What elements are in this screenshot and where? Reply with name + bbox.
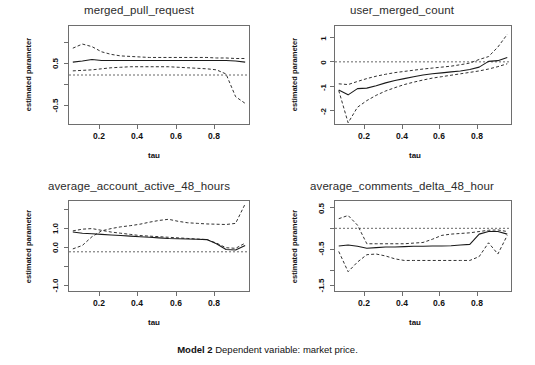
series-estimate [73,232,245,250]
plot-area [334,200,512,292]
y-tick-label: -1.5 [317,273,326,299]
panel-average-comments-delta-48-hour: average_comments_delta_48_hour estimated… [276,180,528,340]
x-tick-mark [214,292,215,296]
x-tick-mark [176,292,177,296]
y-axis-label: estimated parameter [24,201,33,293]
series-group-3 [335,215,511,271]
x-tick-mark [99,292,100,296]
figure-caption: Model 2 Dependent variable: market price… [0,344,535,355]
panel-title: merged_pull_request [10,4,268,16]
y-axis-label: estimated parameter [24,29,33,121]
x-tick-mark [439,125,440,129]
y-tick-label: -2 [319,102,328,122]
series-group-0 [69,44,249,103]
x-axis-label: tau [50,318,258,327]
series-estimate [339,232,508,249]
plot-svg [335,201,511,291]
x-tick-mark [137,292,138,296]
x-tick-mark [137,125,138,129]
y-tick-mark [330,228,334,229]
y-tick-mark [64,209,68,210]
y-tick-mark [64,228,68,229]
series-estimate [73,60,245,63]
y-tick-label: 0.0 [51,235,60,261]
y-tick-label: -0.5 [51,94,60,118]
figure-container: merged_pull_request estimated parameter … [0,0,535,365]
y-tick-label: 0.5 [51,53,60,75]
x-tick-label: 0.2 [88,298,110,308]
x-tick-label: 0.4 [391,298,413,308]
series-upper_ci [339,215,508,243]
y-tick-label: 1 [319,30,328,48]
series-lower_ci [73,204,245,249]
y-tick-mark [330,37,334,38]
series-upper_ci [73,44,245,58]
x-tick-label: 0.4 [126,298,148,308]
y-tick-mark [64,105,68,106]
x-tick-label: 0.6 [428,298,450,308]
caption-model-label: Model 2 [177,344,212,355]
x-tick-label: 0.2 [353,131,375,141]
x-tick-label: 0.2 [353,298,375,308]
x-tick-label: 0.8 [203,298,225,308]
x-tick-label: 0.4 [391,131,413,141]
x-axis-label: tau [316,318,514,327]
panel-average-account-active-48-hours: average_account_active_48_hours estimate… [10,180,268,340]
x-tick-mark [402,292,403,296]
panel-user-merged-count: user_merged_count estimated parameter 1 … [276,4,528,176]
x-tick-label: 0.8 [203,131,225,141]
y-tick-mark [64,63,68,64]
panel-title: user_merged_count [276,4,528,16]
plot-area [68,200,250,292]
x-tick-mark [477,292,478,296]
x-tick-label: 0.6 [165,298,187,308]
y-tick-mark [64,247,68,248]
x-tick-label: 0.2 [88,131,110,141]
x-tick-label: 0.4 [126,131,148,141]
x-tick-mark [477,125,478,129]
y-tick-label: 0.5 [317,197,326,221]
x-tick-mark [214,125,215,129]
x-tick-mark [176,125,177,129]
y-axis-label: estimated parameter [290,201,299,293]
panel-title: average_account_active_48_hours [10,180,268,192]
x-tick-mark [364,125,365,129]
y-tick-mark [330,285,334,286]
y-tick-mark [330,86,334,87]
x-axis-label: tau [50,151,258,160]
x-tick-label: 0.6 [428,131,450,141]
y-tick-mark [64,84,68,85]
y-tick-label: -1 [319,78,328,98]
y-tick-mark [330,207,334,208]
y-tick-mark [64,266,68,267]
series-lower_ci [73,67,245,104]
y-tick-mark [330,61,334,62]
y-axis-label: estimated parameter [290,29,299,121]
panel-title: average_comments_delta_48_hour [276,180,528,192]
series-lower_ci [339,64,508,123]
series-group-1 [335,34,511,122]
caption-text: Dependent variable: market price. [215,344,358,355]
y-tick-label: -0.5 [317,236,326,262]
y-tick-label: 0 [319,54,328,72]
y-tick-mark [330,270,334,271]
plot-svg [335,26,511,124]
plot-area [334,25,512,125]
x-axis-label: tau [316,151,514,160]
plot-svg [69,26,249,124]
series-estimate [339,58,508,95]
x-tick-mark [439,292,440,296]
y-tick-mark [330,249,334,250]
y-tick-mark [64,42,68,43]
y-tick-label: -1.0 [51,272,60,300]
series-group-2 [69,204,249,252]
x-tick-label: 0.8 [466,131,488,141]
x-tick-label: 0.6 [165,131,187,141]
plot-svg [69,201,249,291]
x-tick-mark [99,125,100,129]
series-upper_ci [339,34,508,84]
x-tick-mark [402,125,403,129]
x-tick-label: 0.8 [466,298,488,308]
y-tick-mark [330,110,334,111]
panel-merged-pull-request: merged_pull_request estimated parameter … [10,4,268,176]
